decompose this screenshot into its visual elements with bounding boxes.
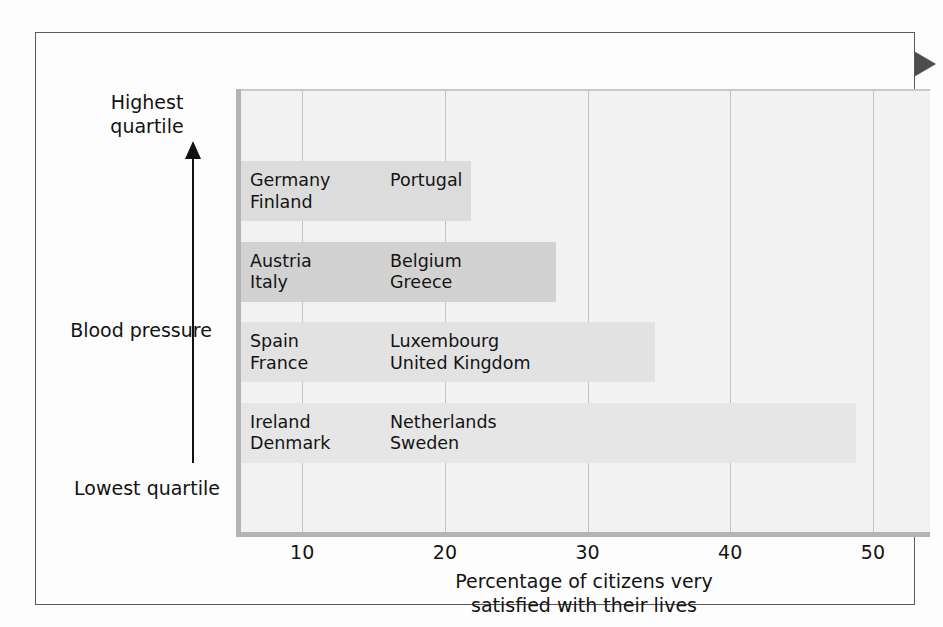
country-label: Spain [250, 331, 390, 352]
country-label: Sweden [390, 433, 497, 454]
plot-area: GermanyFinlandPortugalAustriaItalyBelgiu… [238, 91, 930, 533]
x-gridline [588, 91, 589, 533]
country-label: Austria [250, 250, 390, 271]
up-arrow-icon-shaft [192, 155, 194, 463]
bar: GermanyFinlandPortugal [238, 161, 471, 221]
y-axis-title-text: Blood pressure [70, 319, 212, 341]
bar-country-column-2: NetherlandsSweden [390, 411, 497, 454]
x-tick-label: 40 [700, 541, 760, 563]
bar-country-labels: AustriaItalyBelgiumGreece [250, 250, 462, 293]
y-axis-bottom-label-line1: Lowest [74, 477, 140, 499]
bar-country-labels: GermanyFinlandPortugal [250, 170, 462, 213]
country-label: Greece [390, 272, 462, 293]
x-gridline [873, 91, 874, 533]
country-label: Portugal [390, 170, 462, 191]
bar-country-column-2: BelgiumGreece [390, 250, 462, 293]
x-tick-label: 50 [843, 541, 903, 563]
x-gridline [302, 91, 303, 533]
x-axis-title: Percentage of citizens verysatisfied wit… [238, 570, 930, 618]
bar-country-column-2: Portugal [390, 170, 462, 213]
x-tick-label: 30 [558, 541, 618, 563]
country-label: Luxembourg [390, 331, 530, 352]
bar: IrelandDenmarkNetherlandsSweden [238, 403, 856, 463]
x-tick-label: 20 [415, 541, 475, 563]
up-arrow-icon-head [185, 141, 201, 159]
country-label: France [250, 352, 390, 373]
page-background: Highest quartile Blood pressure Lowest q… [0, 0, 943, 627]
x-gridline [730, 91, 731, 533]
x-axis-title-line: Percentage of citizens very [238, 570, 930, 594]
country-label: Denmark [250, 433, 390, 454]
y-axis-top-label-line2: quartile [110, 115, 183, 137]
y-axis-bottom-label-line2: quartile [147, 477, 220, 499]
bar-country-labels: SpainFranceLuxembourgUnited Kingdom [250, 331, 530, 374]
country-label: Germany [250, 170, 390, 191]
y-axis-title: Blood pressure [60, 319, 222, 343]
x-axis-rule [236, 532, 930, 537]
bar: AustriaItalyBelgiumGreece [238, 242, 556, 302]
bar-country-column-1: AustriaItaly [250, 250, 390, 293]
country-label: Ireland [250, 411, 390, 432]
country-label: Italy [250, 272, 390, 293]
bar-country-labels: IrelandDenmarkNetherlandsSweden [250, 411, 497, 454]
bar: SpainFranceLuxembourgUnited Kingdom [238, 322, 655, 382]
y-axis-top-label: Highest quartile [72, 91, 222, 139]
y-axis-rule [236, 89, 241, 537]
y-axis-bottom-label: Lowest quartile [72, 477, 222, 501]
x-gridline [445, 91, 446, 533]
bar-country-column-1: IrelandDenmark [250, 411, 390, 454]
x-tick-label: 10 [272, 541, 332, 563]
country-label: Belgium [390, 250, 462, 271]
y-axis-top-label-line1: Highest [111, 91, 184, 113]
country-label: Netherlands [390, 411, 497, 432]
bar-country-column-2: LuxembourgUnited Kingdom [390, 331, 530, 374]
country-label: United Kingdom [390, 352, 530, 373]
country-label: Finland [250, 191, 390, 212]
x-axis-title-line: satisfied with their lives [238, 594, 930, 618]
bar-country-column-1: GermanyFinland [250, 170, 390, 213]
figure-frame: Highest quartile Blood pressure Lowest q… [35, 32, 915, 605]
bar-country-column-1: SpainFrance [250, 331, 390, 374]
